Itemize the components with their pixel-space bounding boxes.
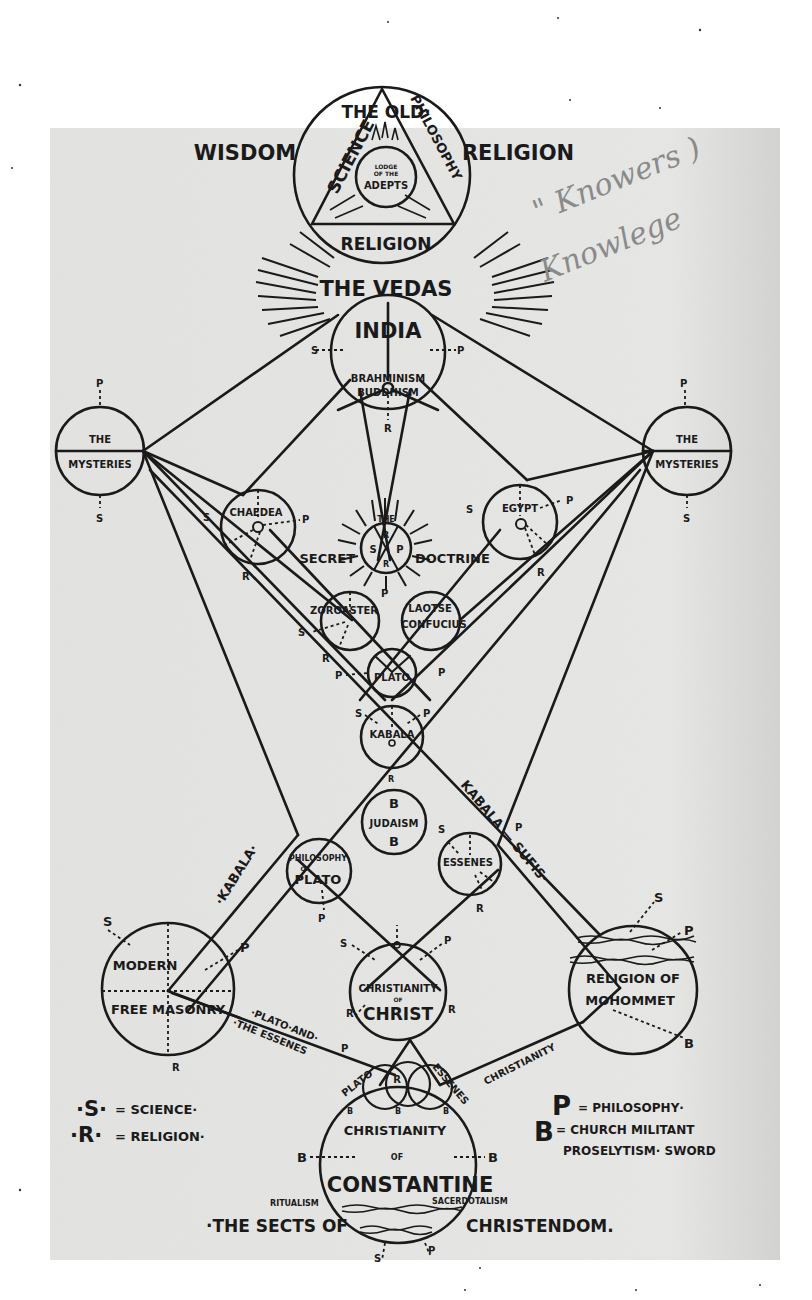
triple-r-marker: R [393,1074,401,1085]
sects-of-label: ·THE SECTS OF [206,1216,348,1236]
adepts-label: ADEPTS [364,180,408,191]
india-r-marker: R [384,423,392,434]
legend-b-key: B [534,1117,554,1147]
zoroaster-s-marker: S [298,627,305,638]
christ-of-label: OF [393,996,402,1003]
lodge-label: LODGE [375,163,398,170]
christ-r-left-marker: R [346,1008,354,1019]
kabala-label: KABALA [370,729,415,740]
india-p-marker: P [457,345,464,356]
kabala-p-marker: P [423,708,430,719]
religion-of-label: RELIGION OF [586,971,680,986]
mysteries-right-label: MYSTERIES [655,459,719,470]
plato-p-marker: P [335,670,342,681]
triple-b-right: B [443,1107,449,1116]
christ-r-right-marker: R [448,1004,456,1015]
christendom-label: CHRISTENDOM. [466,1216,614,1236]
brahminism-label: BRAHMINISM [351,373,425,384]
mohommet-label: MOHOMMET [585,993,675,1008]
constantine-b-right: B [488,1150,498,1165]
india-s-marker: S [311,345,318,356]
judaism-label: JUDAISM [369,818,419,829]
plato-sub-label: PLATO [295,872,342,887]
free-masonry-r-marker: R [172,1062,180,1073]
constantine-of-label: OF [391,1153,403,1162]
chaldea-s-marker: S [203,512,210,523]
essenes-s-marker: S [438,824,445,835]
india-title: INDIA [355,319,423,343]
secret-s: S [369,544,376,555]
mysteries-right-the: THE [676,434,698,445]
free-masonry-p-marker: P [240,940,250,955]
free-masonry-s-marker: S [103,914,112,929]
mysteries-right-s-marker: S [683,513,690,524]
religion-title: RELIGION [462,141,574,165]
christianity-label: CHRISTIANITY [359,983,439,994]
mohommet-p-marker: P [684,923,694,938]
confucius-label: CONFUCIUS [401,619,467,630]
zoroaster-r-marker: R [322,653,330,664]
mysteries-left-p-marker: P [96,378,103,389]
zoroaster-label: ZOROASTER [310,605,378,616]
constantine-s-marker: S [374,1253,381,1264]
egypt-p-marker: P [566,495,573,506]
legend-b-value: = CHURCH MILITANT [556,1123,695,1137]
egypt-r-marker: R [537,567,545,578]
doctrine-label: DOCTRINE [415,551,490,566]
old-wisdom-religion-diagram: LODGE OF THE ADEPTS SCIENCE PHILOSOPHY R… [0,0,812,1300]
legend-b-value-2: PROSELYTISM· SWORD [563,1144,716,1158]
mohommet-b-marker: B [684,1036,694,1051]
legend-p-value: = PHILOSOPHY· [578,1101,684,1115]
mysteries-left-s-marker: S [96,513,103,524]
triple-b-left: B [347,1107,353,1116]
secret-p-below: P [381,588,388,599]
secret-r-top: R [383,531,389,540]
of-label: OF [300,865,309,872]
legend-s-value: = SCIENCE· [115,1102,197,1117]
mohommet-s-marker: S [654,890,663,905]
laotse-label: LAOTSE [408,603,452,614]
constantine-christianity-label: CHRISTIANITY [344,1123,447,1138]
ritualism-label: RITUALISM [270,1199,319,1208]
wisdom-title: WISDOM [194,141,296,165]
egypt-s-marker: S [466,504,473,515]
diagram-canvas: LODGE OF THE ADEPTS SCIENCE PHILOSOPHY R… [0,0,812,1300]
christ-s-marker: S [340,938,347,949]
legend-s-key: ·S· [76,1097,107,1121]
mysteries-left-label: MYSTERIES [68,459,132,470]
constantine-p-marker: P [428,1245,435,1256]
legend-r-key: ·R· [70,1123,102,1147]
legend-p-key: P [552,1091,571,1121]
essenes-r-marker: R [476,903,484,914]
mysteries-left-the: THE [89,434,111,445]
judaism-b-top: B [389,796,399,811]
sacerdotalism-label: SACERDOTALISM [432,1197,508,1206]
christ-p-marker: P [444,935,451,946]
egypt-label: EGYPT [502,503,538,514]
triple-b-center: B [395,1107,401,1116]
the-old-title: THE OLD· [341,102,430,122]
chaldea-r-marker: R [242,571,250,582]
chaldea-label: CHAEDEA [229,507,282,518]
the-vedas-label: THE VEDAS [320,277,453,301]
judaism-b-bottom: B [389,834,399,849]
mysteries-right-p-marker: P [680,378,687,389]
christ-label: CHRIST [363,1004,433,1024]
secret-p: P [396,544,403,555]
philosophy-plato-p-marker: P [318,913,325,924]
the-label: THE [377,515,395,524]
of-the-label: OF THE [374,170,399,177]
secret-label: SECRET [299,551,355,566]
plato-p-right-marker: P [438,667,445,678]
constantine-label: CONSTANTINE [327,1173,494,1197]
buddhism-label: BUDDHISM [357,387,419,398]
modern-label: MODERN [113,958,178,973]
chaldea-p-marker: P [302,514,309,525]
essenes-p-marker: P [515,822,522,833]
plato-label: PLATO [374,672,410,683]
philosophy-label: PHILOSOPHY [289,854,347,863]
essenes-label: ESSENES [443,857,493,868]
judaism-circle: B JUDAISM B [362,790,426,854]
free-masonry-label: FREE MASONRY [111,1002,226,1017]
kabala-r-marker: R [388,775,394,784]
